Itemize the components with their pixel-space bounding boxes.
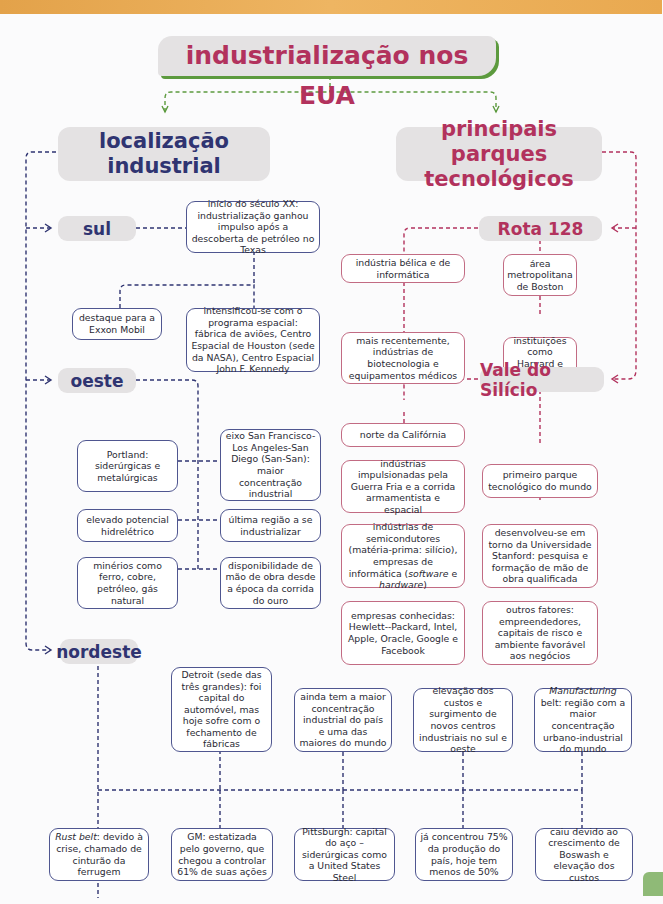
page-corner-tab bbox=[643, 872, 663, 896]
node-oeste: oeste bbox=[58, 368, 136, 393]
box-vale-outros-fatores: outros fatores: empreendedores, capitais… bbox=[482, 601, 598, 665]
box-vale-california: norte da Califórnia bbox=[341, 423, 465, 447]
box-vale-empresas: empresas conhecidas: Hewlett--Packard, I… bbox=[341, 601, 465, 665]
text: ) bbox=[423, 579, 427, 590]
node-rota-128: Rota 128 bbox=[479, 216, 602, 241]
node-sul: sul bbox=[58, 216, 136, 241]
box-text: Rust belt: devido à crise, chamado de ci… bbox=[54, 831, 144, 877]
box-nordeste-boswash: caiu devido ao crescimento de Boswash e … bbox=[535, 828, 633, 881]
heading-localizacao-industrial: localização industrial bbox=[58, 127, 270, 181]
node-nordeste: nordeste bbox=[60, 639, 138, 664]
node-vale-do-silicio: Vale do Silício bbox=[480, 367, 604, 392]
box-oeste-portland: Portland: siderúrgicas e metalúrgicas bbox=[77, 440, 178, 492]
box-nordeste-manufacturing-belt: Manufacturing belt: região com a maior c… bbox=[534, 688, 632, 752]
box-vale-guerra-fria: indústrias impulsionadas pela Guerra Fri… bbox=[341, 460, 465, 513]
italic-term: software bbox=[408, 568, 448, 579]
box-rota-belica: indústria bélica e de informática bbox=[341, 254, 465, 283]
box-oeste-ultima-regiao: última região a se industrializar bbox=[220, 509, 321, 542]
box-nordeste-rust-belt: Rust belt: devido à crise, chamado de ci… bbox=[49, 828, 149, 881]
box-nordeste-elevacao-custos: elevação dos custos e surgimento de novo… bbox=[413, 688, 513, 752]
italic-term: Rust belt bbox=[55, 831, 97, 842]
text: e bbox=[449, 568, 458, 579]
italic-term: hardware bbox=[379, 579, 423, 590]
heading-text: principais parques tecnológicos bbox=[404, 117, 594, 192]
box-oeste-minerios: minérios como ferro, cobre, petróleo, gá… bbox=[77, 557, 178, 609]
box-vale-primeiro-parque: primeiro parque tecnológico do mundo bbox=[482, 464, 598, 498]
box-vale-semicondutores: indústrias de semicondutores (matéria-pr… bbox=[341, 524, 465, 588]
box-sul-programa-espacial: intensificou-se com o programa espacial:… bbox=[186, 308, 320, 372]
box-nordeste-75-percent: já concentrou 75% da produção do país, h… bbox=[415, 828, 513, 881]
heading-text: localização industrial bbox=[89, 129, 239, 179]
box-oeste-san-san: eixo San Francisco-Los Angeles-San Diego… bbox=[220, 429, 321, 501]
box-nordeste-concentracao: ainda tem a maior concentração industria… bbox=[294, 688, 392, 752]
box-nordeste-gm: GM: estatizada pelo governo, que chegou … bbox=[171, 828, 273, 881]
italic-term: Manufacturing bbox=[549, 685, 616, 696]
heading-parques-tecnologicos: principais parques tecnológicos bbox=[396, 127, 602, 181]
box-nordeste-pittsburgh: Pittsburgh: capital do aço – siderúrgica… bbox=[294, 828, 395, 881]
box-sul-exxon: destaque para a Exxon Mobil bbox=[72, 308, 162, 340]
box-rota-biotecnologia: mais recentemente, indústrias de biotecn… bbox=[341, 332, 465, 384]
box-rota-boston: área metropolitana de Boston bbox=[503, 254, 577, 296]
box-vale-stanford: desenvolveu-se em torno da Universidade … bbox=[482, 524, 598, 588]
box-nordeste-detroit: Detroit (sede das três grandes): foi cap… bbox=[171, 667, 272, 752]
text: belt: região com a maior concentração ur… bbox=[541, 697, 626, 754]
diagram-title: industrialização nos EUA bbox=[158, 36, 496, 76]
box-text: indústrias de semicondutores (matéria-pr… bbox=[346, 521, 460, 591]
box-oeste-hidreletrico: elevado potencial hidrelétrico bbox=[77, 509, 178, 542]
box-oeste-mao-de-obra: disponibilidade de mão de obra desde a é… bbox=[220, 557, 321, 609]
box-text: Manufacturing belt: região com a maior c… bbox=[539, 685, 627, 755]
box-sul-inicio: início do século XX: industrialização ga… bbox=[186, 201, 320, 253]
